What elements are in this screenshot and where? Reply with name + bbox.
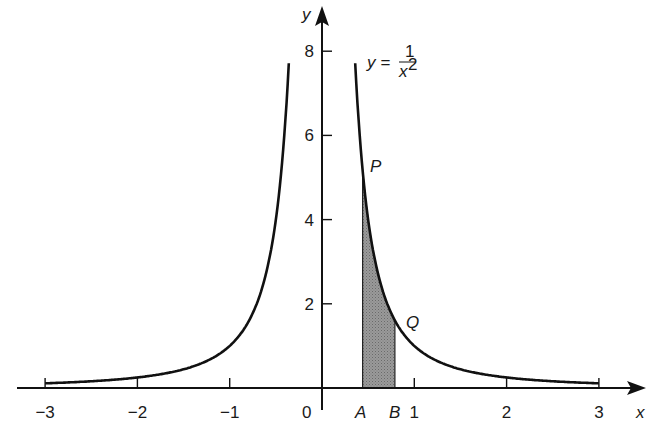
curve-left-branch [45, 63, 289, 383]
point-p-label: P [370, 157, 382, 176]
function-label-exponent: 2 [408, 55, 417, 74]
x-tick-label: 3 [594, 403, 603, 422]
function-label-denominator: x [398, 62, 408, 81]
point-a-label: A [354, 403, 366, 422]
y-tick-label: 4 [305, 211, 314, 230]
x-axis-label: x [635, 403, 645, 422]
y-ticks: 2468 [305, 42, 332, 314]
function-graph: −3−2−1123 2468 y x 0 y = 1 x 2 P Q A B [0, 0, 659, 440]
y-axis-label: y [301, 5, 312, 24]
x-tick-label: 2 [502, 403, 511, 422]
point-b-label: B [389, 403, 400, 422]
x-tick-label: −2 [128, 403, 147, 422]
x-ticks: −3−2−1123 [35, 378, 603, 422]
y-tick-label: 8 [305, 42, 314, 61]
y-tick-label: 2 [305, 295, 314, 314]
x-tick-label: −3 [35, 403, 54, 422]
origin-label: 0 [302, 403, 311, 422]
x-tick-label: 1 [410, 403, 419, 422]
function-label-lhs: y = [366, 53, 390, 72]
y-tick-label: 6 [305, 126, 314, 145]
x-tick-label: −1 [220, 403, 239, 422]
point-q-label: Q [406, 313, 419, 332]
